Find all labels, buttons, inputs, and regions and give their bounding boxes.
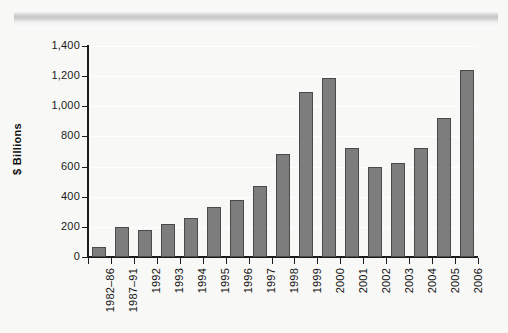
x-axis-tick-label: 1998 <box>288 268 300 293</box>
x-axis-tick-label: 2005 <box>449 268 461 293</box>
y-axis-tick <box>82 136 88 137</box>
x-axis-tick-label: 2006 <box>472 268 484 293</box>
x-axis-labels-layer: 1982–861987–9119921993199419951996199719… <box>0 0 508 333</box>
y-axis-tick <box>82 106 88 107</box>
x-axis-tick-label: 2003 <box>403 268 415 293</box>
x-axis-tick-label: 1992 <box>150 268 162 293</box>
y-axis-tick <box>82 46 88 47</box>
x-axis-tick-label: 1987–91 <box>127 268 139 312</box>
x-axis-tick-label: 1982–86 <box>104 268 116 312</box>
y-axis-tick <box>82 76 88 77</box>
bar-chart-figure: 02004006008001,0001,2001,400 $ Billions … <box>0 0 508 333</box>
x-axis-tick-label: 2001 <box>357 268 369 293</box>
x-axis-tick-label: 1993 <box>173 268 185 293</box>
x-axis-tick-label: 1999 <box>311 268 323 293</box>
x-axis-tick-label: 1994 <box>196 268 208 293</box>
x-axis-tick-label: 1997 <box>265 268 277 293</box>
x-axis-tick-label: 2000 <box>334 268 346 293</box>
y-axis-tick <box>82 167 88 168</box>
y-axis-tick <box>82 257 88 258</box>
x-axis-tick-label: 1995 <box>219 268 231 293</box>
x-axis-tick-label: 2004 <box>426 268 438 293</box>
x-axis-tick-label: 2002 <box>380 268 392 293</box>
x-axis-tick-label: 1996 <box>242 268 254 293</box>
y-axis-tick <box>82 227 88 228</box>
y-axis-tick <box>82 197 88 198</box>
